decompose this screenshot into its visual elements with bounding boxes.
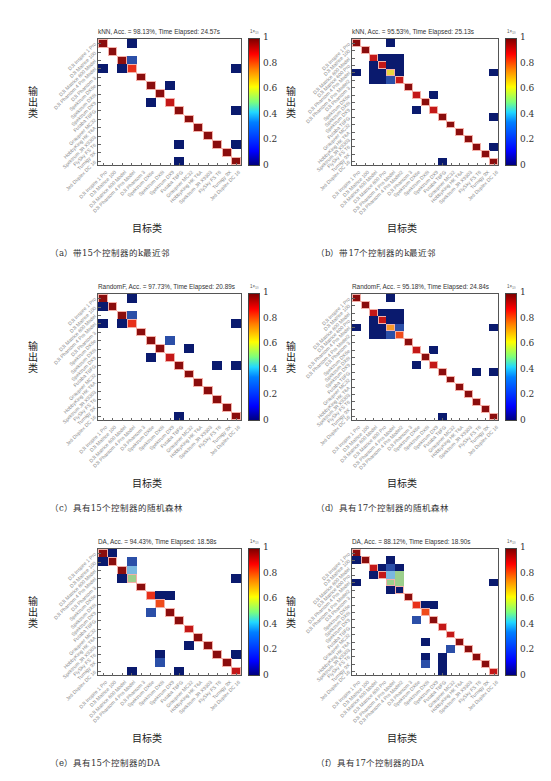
matrix-cell <box>231 650 241 659</box>
y-axis-label: 输出类 <box>282 596 297 629</box>
y-tick <box>352 627 355 628</box>
y-tick <box>352 80 355 81</box>
y-tick <box>352 379 355 380</box>
x-tick <box>356 418 357 421</box>
y-tick <box>98 340 101 341</box>
x-tick <box>468 163 469 166</box>
matrix-cell <box>421 638 430 646</box>
x-tick <box>468 418 469 421</box>
x-tick <box>170 673 171 676</box>
x-tick <box>451 163 452 166</box>
matrix-cell-diagonal <box>174 616 184 625</box>
y-tick <box>98 307 101 308</box>
x-tick <box>442 418 443 421</box>
colorbar-unit: 1×₁₀ <box>507 284 516 289</box>
x-tick <box>391 418 392 421</box>
colorbar-tick-label: 0.4 <box>520 109 534 119</box>
matrix-cell <box>146 98 156 107</box>
confusion-matrix <box>97 548 242 676</box>
matrix-cell-diagonal <box>127 64 137 73</box>
x-tick <box>189 673 190 676</box>
matrix-cell <box>127 294 137 303</box>
y-tick <box>98 52 101 53</box>
x-tick <box>408 418 409 421</box>
y-tick <box>352 568 355 569</box>
matrix-cell-diagonal <box>108 47 118 56</box>
x-tick <box>236 673 237 676</box>
y-tick <box>98 43 101 44</box>
y-tick <box>352 656 355 657</box>
matrix-cell-diagonal <box>193 123 203 132</box>
matrix-cell-diagonal <box>108 557 118 566</box>
x-tick <box>494 673 495 676</box>
y-tick <box>352 612 355 613</box>
matrix-cell-diagonal <box>155 89 165 98</box>
y-tick <box>98 399 101 400</box>
x-axis-label: 目标类 <box>387 475 417 490</box>
colorbar-tick-label: 0 <box>263 160 269 170</box>
x-tick <box>434 673 435 676</box>
y-tick <box>98 161 101 162</box>
y-tick <box>98 60 101 61</box>
y-axis-label: 输出类 <box>282 86 297 119</box>
y-tick <box>98 391 101 392</box>
colorbar <box>505 293 517 421</box>
y-tick <box>98 94 101 95</box>
x-tick <box>131 163 132 166</box>
colorbar-tick-label: 1 <box>263 32 269 42</box>
y-tick <box>352 320 355 321</box>
x-tick <box>416 673 417 676</box>
x-tick <box>160 418 161 421</box>
y-tick <box>98 315 101 316</box>
x-tick <box>198 418 199 421</box>
x-tick <box>416 418 417 421</box>
y-tick <box>352 664 355 665</box>
matrix-cell <box>412 616 421 624</box>
y-tick <box>98 671 101 672</box>
colorbar-tick-label: 0.2 <box>520 644 534 654</box>
colorbar <box>505 38 517 166</box>
panel-f: DA, Acc. = 88.12%, Time Elapsed: 18.90sD… <box>276 510 551 760</box>
matrix-cell-diagonal <box>222 658 232 667</box>
matrix-cell <box>117 319 127 328</box>
colorbar-tick-label: 0.8 <box>520 568 534 578</box>
colorbar <box>248 293 260 421</box>
y-tick <box>98 578 101 579</box>
y-tick <box>352 146 355 147</box>
colorbar-tick-label: 1 <box>263 542 269 552</box>
confusion-matrix <box>97 38 242 166</box>
matrix-cell-diagonal <box>184 115 194 124</box>
matrix-cell <box>489 324 498 332</box>
matrix-cell <box>212 361 222 370</box>
colorbar-unit: 1×₁₀ <box>250 539 259 544</box>
y-tick <box>98 416 101 417</box>
matrix-cell-diagonal <box>146 336 156 345</box>
matrix-cell <box>386 294 395 302</box>
x-tick <box>382 163 383 166</box>
y-tick <box>352 335 355 336</box>
matrix-cell <box>165 591 175 600</box>
colorbar-unit: 1×₁₀ <box>507 539 516 544</box>
y-tick <box>98 77 101 78</box>
plot-title: DA, Acc. = 88.12%, Time Elapsed: 18.90s <box>352 538 470 545</box>
x-tick <box>141 163 142 166</box>
y-tick <box>98 407 101 408</box>
x-tick <box>217 163 218 166</box>
x-tick <box>217 418 218 421</box>
y-tick <box>98 382 101 383</box>
matrix-cell <box>446 645 455 653</box>
matrix-cell-diagonal <box>108 302 118 311</box>
y-tick <box>352 357 355 358</box>
matrix-cell <box>412 106 421 114</box>
y-tick <box>98 68 101 69</box>
x-tick <box>382 418 383 421</box>
confusion-matrix <box>97 293 242 421</box>
x-tick <box>227 163 228 166</box>
matrix-cell <box>155 658 165 667</box>
colorbar-tick-label: 0 <box>520 160 526 170</box>
colorbar-tick-label: 1 <box>520 542 526 552</box>
y-tick <box>352 575 355 576</box>
x-tick <box>179 418 180 421</box>
x-tick <box>103 673 104 676</box>
x-tick <box>494 418 495 421</box>
